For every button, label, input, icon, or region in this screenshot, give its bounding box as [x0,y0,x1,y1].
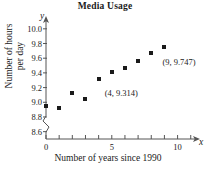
x-axis-tick-marks [46,135,191,139]
point-annotation-label: (9, 9.747) [162,57,195,67]
y-axis-tick-label: 9.2 [14,83,42,93]
data-point [97,77,101,81]
x-axis-tick-label: 0 [44,142,48,152]
y-axis-tick-label: 9.6 [14,53,42,63]
data-point [44,104,48,108]
y-axis-tick-label: 9.4 [14,68,42,78]
data-point [162,45,166,49]
data-point [70,91,74,95]
y-axis-tick-label: 9.0 [14,97,42,107]
y-axis-tick-label: 9.8 [14,39,42,49]
y-axis-tick-label: 8.6 [14,127,42,137]
chart-figure: Media Usage Number of hours per day Numb… [0,0,210,171]
y-axis-variable: y [40,11,44,21]
data-point [110,70,114,74]
data-point [83,97,87,101]
point-annotation-label: (4, 9.314) [105,88,138,98]
y-axis-tick-label: 10.0 [14,24,42,34]
data-point [149,51,153,55]
data-point [57,106,61,110]
y-axis-tick-label: 8.8 [14,112,42,122]
data-point [123,66,127,70]
x-axis-tick-label: 5 [110,142,114,152]
x-axis-tick-label: 10 [173,142,182,152]
data-point [136,59,140,63]
x-axis-variable: x [199,137,203,147]
axes [43,16,200,142]
